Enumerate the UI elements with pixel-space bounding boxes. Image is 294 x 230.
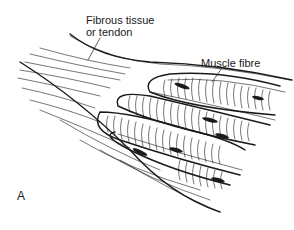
muscle-tendon-illustration — [0, 0, 294, 230]
muscle-fibre-label: Muscle fibre — [201, 57, 260, 69]
tendon-label: Fibrous tissue — [86, 14, 154, 26]
muscle-fibre-1 — [148, 73, 285, 115]
tendon-label-line2: or tendon — [86, 26, 132, 38]
muscle-fibre-2 — [117, 92, 275, 145]
panel-label: A — [17, 190, 25, 202]
tendon-leader-line — [88, 38, 100, 60]
